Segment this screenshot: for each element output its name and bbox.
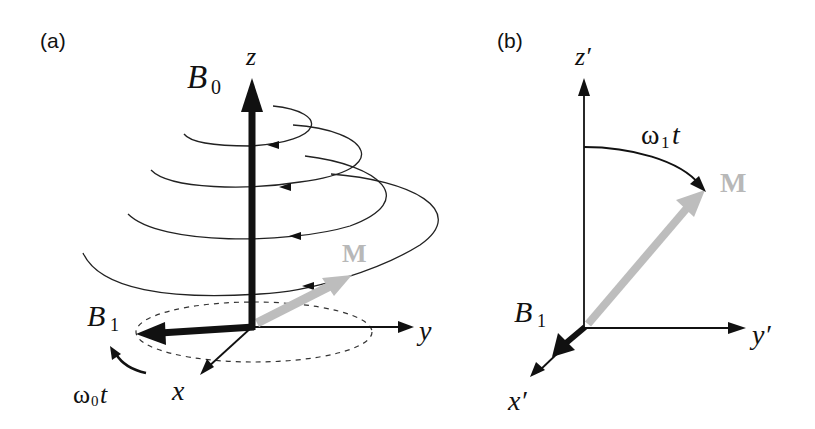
- z-axis-label: z: [245, 42, 256, 71]
- rotation-arrow-omega0: [116, 354, 146, 373]
- y-axis-arrowhead: [398, 321, 414, 333]
- y-axis-label: y: [416, 315, 432, 346]
- precession-spiral: [83, 106, 438, 296]
- m-label: M: [342, 239, 367, 268]
- x-axis-label: x: [171, 375, 185, 406]
- b1-prime-subscript: 1: [537, 311, 546, 331]
- y-prime-label: y′: [749, 319, 771, 350]
- x-prime-arrowhead: [530, 362, 545, 377]
- panel-b: (b) z′ ω 1 t M B 1 y′ x′: [497, 29, 771, 416]
- omega1-subscript: 1: [661, 133, 670, 152]
- b1-vector: [160, 327, 254, 333]
- b1-arrowhead: [136, 322, 166, 345]
- b1-prime-symbol: B: [514, 295, 532, 328]
- b0-subscript: 0: [211, 76, 221, 98]
- spiral-arrowheads: [267, 141, 314, 290]
- magnetization-vector: [257, 283, 336, 323]
- x-prime-label: x′: [507, 385, 527, 416]
- nutation-arc-omega1: [584, 147, 700, 185]
- m-prime-label: M: [720, 167, 746, 198]
- omega1-t: t: [672, 119, 681, 150]
- nmr-precession-diagram: (a): [0, 0, 815, 429]
- omega0-symbol: ω: [73, 380, 90, 409]
- b1-prime-vector: [566, 327, 585, 343]
- panel-a: (a): [40, 29, 438, 409]
- magnetization-vector-rotating: [588, 208, 687, 324]
- z-prime-label: z′: [574, 42, 591, 71]
- x-axis-arrowhead: [200, 359, 214, 375]
- b1-subscript: 1: [110, 315, 119, 335]
- y-prime-arrowhead: [728, 322, 746, 334]
- panel-b-label: (b): [497, 29, 523, 52]
- b1-symbol: B: [87, 299, 105, 332]
- omega0-t: t: [100, 380, 108, 409]
- b0-symbol: B: [187, 59, 207, 95]
- b0-arrowhead: [241, 78, 263, 112]
- z-prime-arrowhead: [578, 78, 590, 96]
- panel-a-label: (a): [40, 29, 66, 52]
- omega1-symbol: ω: [641, 119, 659, 150]
- omega0-subscript: 0: [91, 393, 99, 409]
